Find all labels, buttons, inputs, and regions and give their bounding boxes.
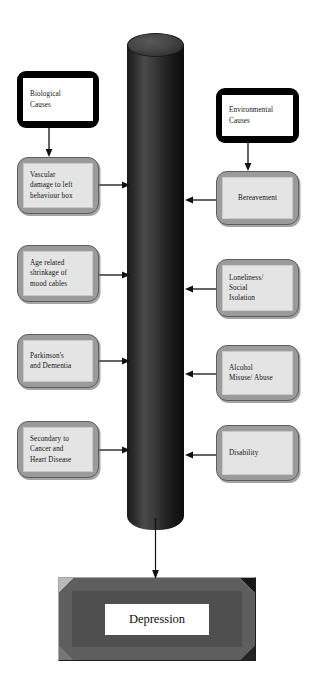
- connector-loneliness-to-cylinder: [184, 283, 216, 295]
- node-biological-causes-text: Biological Causes: [23, 78, 93, 121]
- node-line: Bereavement: [238, 193, 277, 203]
- node-age-related-shrinkage[interactable]: Age related shrinkage of mood cables: [17, 245, 99, 302]
- node-line: and Dementia: [30, 361, 71, 371]
- node-vascular-damage[interactable]: Vascular damage to left behaviour box: [17, 157, 99, 214]
- node-line: Misuse/ Abuse: [229, 373, 273, 383]
- outcome-depression-box[interactable]: Depression: [58, 577, 256, 661]
- outcome-label-plate: Depression: [105, 604, 209, 635]
- outcome-label: Depression: [129, 612, 185, 627]
- node-age-related-shrinkage-text: Age related shrinkage of mood cables: [23, 251, 93, 296]
- node-alcohol-misuse[interactable]: Alcohol Misuse/ Abuse: [216, 345, 299, 401]
- node-line: Isolation: [229, 293, 255, 303]
- connector-age-shrinkage-to-cylinder: [99, 269, 131, 281]
- node-parkinsons-dementia[interactable]: Parkinson's and Dementia: [17, 334, 99, 388]
- connector-vascular-to-cylinder: [99, 179, 131, 191]
- node-loneliness-social-isolation[interactable]: Loneliness/ Social Isolation: [216, 259, 299, 317]
- node-loneliness-social-isolation-text: Loneliness/ Social Isolation: [222, 265, 293, 311]
- node-line: Disability: [229, 448, 258, 458]
- node-environmental-causes-text: Environmental Causes: [222, 95, 293, 136]
- node-disability[interactable]: Disability: [216, 425, 299, 481]
- node-line: Age related: [30, 258, 64, 268]
- node-bereavement[interactable]: Bereavement: [216, 171, 299, 225]
- cylinder-top-ellipse: [127, 33, 184, 57]
- node-line: shrinkage of: [30, 268, 67, 278]
- node-line: damage to left: [30, 180, 73, 190]
- node-line: mood cables: [30, 279, 67, 289]
- node-bereavement-text: Bereavement: [222, 177, 293, 219]
- node-line: Environmental: [229, 105, 273, 115]
- connector-secondary-to-cylinder: [99, 444, 131, 456]
- node-alcohol-misuse-text: Alcohol Misuse/ Abuse: [222, 351, 293, 395]
- node-line: Loneliness/: [229, 273, 263, 283]
- node-line: Social: [229, 283, 248, 293]
- node-biological-causes[interactable]: Biological Causes: [17, 71, 99, 128]
- node-line: Causes: [30, 100, 51, 110]
- connector-parkinsons-to-cylinder: [99, 355, 131, 367]
- node-line: Parkinson's: [30, 351, 64, 361]
- connector-environmental-to-bereavement: [243, 143, 257, 172]
- node-line: Secondary to: [30, 434, 69, 444]
- node-parkinsons-dementia-text: Parkinson's and Dementia: [23, 340, 93, 382]
- node-secondary-cancer-heart-text: Secondary to Cancer and Heart Disease: [23, 427, 93, 472]
- node-line: Alcohol: [229, 363, 253, 373]
- connector-cylinder-to-depression: [149, 518, 163, 580]
- node-line: Heart Disease: [30, 455, 71, 465]
- node-disability-text: Disability: [222, 431, 293, 475]
- outcome-face: Depression: [72, 591, 242, 647]
- node-line: behaviour box: [30, 191, 73, 201]
- node-line: Biological: [30, 89, 61, 99]
- connector-bereavement-to-cylinder: [184, 194, 216, 206]
- central-cylinder: [127, 33, 184, 530]
- cylinder-body: [127, 45, 184, 530]
- node-environmental-causes[interactable]: Environmental Causes: [216, 88, 299, 143]
- node-line: Vascular: [30, 170, 56, 180]
- node-line: Causes: [229, 116, 250, 126]
- node-line: Cancer and: [30, 444, 64, 454]
- diagram-canvas: Biological Causes Vascular damage to lef…: [0, 0, 316, 692]
- connector-disability-to-cylinder: [184, 449, 216, 461]
- connector-biological-to-vascular: [44, 128, 58, 158]
- node-vascular-damage-text: Vascular damage to left behaviour box: [23, 163, 93, 208]
- node-secondary-cancer-heart[interactable]: Secondary to Cancer and Heart Disease: [17, 421, 99, 478]
- connector-alcohol-to-cylinder: [184, 368, 216, 380]
